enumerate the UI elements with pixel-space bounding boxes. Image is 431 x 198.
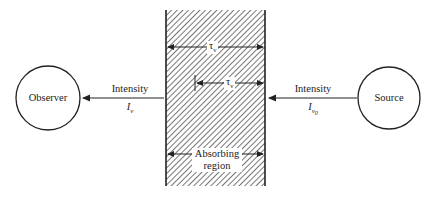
total-optical-depth-label: τν [207,41,218,54]
right-intensity-label: Intensity [283,84,343,95]
observer-label: Observer [18,93,78,104]
right-intensity-symbol: Iν0 [293,102,333,116]
absorbing-region-label: Absorbing region [192,148,242,172]
source-label: Source [359,93,419,104]
left-intensity-label: Intensity [100,84,160,95]
partial-optical-depth-label: τν [224,77,235,90]
left-intensity-symbol: Iν [110,102,150,115]
